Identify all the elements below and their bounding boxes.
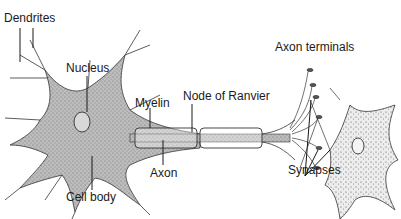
label-axon: Axon (150, 167, 177, 179)
label-nucleus: Nucleus (66, 62, 109, 74)
label-myelin: Myelin (135, 97, 170, 109)
neuron-diagram (0, 0, 401, 219)
label-cell-body: Cell body (66, 191, 116, 203)
myelin-sheath-1 (135, 128, 197, 148)
label-dendrites: Dendrites (4, 12, 55, 24)
target-neuron (325, 105, 398, 219)
label-axon-terminals: Axon terminals (275, 41, 354, 53)
myelin-sheath-2 (200, 128, 262, 148)
nucleus-shape (74, 112, 90, 132)
label-node-of-ranvier: Node of Ranvier (183, 90, 270, 102)
label-synapses: Synapses (288, 164, 341, 176)
